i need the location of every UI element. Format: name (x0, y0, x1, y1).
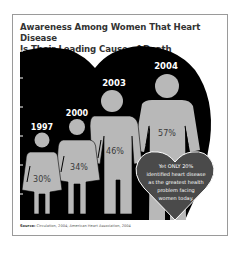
year-label-2000: 2000 (66, 109, 89, 118)
percent-label-2004: 57% (158, 129, 176, 138)
source-label: Source: (20, 224, 35, 228)
callout-line-5: women today. (159, 195, 194, 202)
callout-line-4: problem facing (157, 187, 195, 194)
callout-line-3: as the greatest health (148, 179, 203, 186)
year-label-2003: 2003 (102, 78, 126, 88)
year-label-2004: 2004 (154, 61, 178, 71)
callout-line-1: Yet ONLY 20% (158, 163, 194, 169)
pictograph-chart: 1997 2000 2003 2004 30% 34% 46% 57% Yet … (0, 0, 241, 253)
callout-line-2: identified heart disease (146, 171, 205, 177)
source-text: Circulation, 2004; American Heart Associ… (37, 224, 131, 228)
source-note: Source: Circulation, 2004; American Hear… (20, 224, 131, 228)
year-label-1997: 1997 (31, 123, 53, 132)
percent-label-2003: 46% (106, 147, 124, 156)
percent-label-2000: 34% (70, 163, 88, 172)
percent-label-1997: 30% (33, 175, 51, 184)
